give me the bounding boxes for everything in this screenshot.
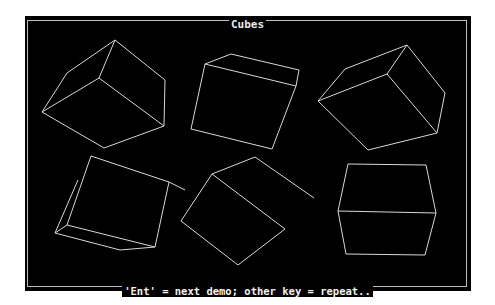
cube-edge	[437, 93, 445, 133]
cube-edge	[238, 229, 285, 265]
cube-4	[55, 156, 185, 250]
cube-edge	[272, 86, 296, 149]
cube-edge	[42, 78, 99, 112]
cube-edge	[115, 40, 165, 80]
cube-edge	[67, 156, 91, 225]
cube-edge	[338, 211, 436, 213]
cube-edge	[346, 254, 425, 255]
cube-5	[181, 157, 314, 265]
cube-edge	[387, 74, 437, 133]
cube-edge	[42, 73, 67, 112]
cube-edge	[348, 164, 426, 165]
cube-edge	[99, 78, 164, 126]
cube-1	[42, 40, 165, 148]
cube-edge	[407, 45, 445, 93]
cube-edge	[296, 70, 299, 86]
cube-edge	[231, 54, 299, 70]
cube-6	[338, 164, 436, 255]
cube-edge	[212, 174, 285, 229]
cube-edge	[120, 247, 155, 250]
cube-edge	[338, 164, 348, 211]
cube-edge	[318, 74, 387, 101]
cube-edge	[255, 157, 314, 198]
cube-edge	[426, 165, 436, 213]
cube-edge	[155, 182, 169, 247]
cube-edge	[212, 157, 255, 174]
cube-edge	[67, 225, 155, 247]
cube-edge	[91, 156, 169, 182]
cube-edge	[345, 45, 407, 69]
cubes-canvas	[0, 0, 495, 305]
footer-prompt: 'Ent' = next demo; other key = repeat..	[0, 280, 495, 299]
cube-edge	[205, 64, 296, 86]
window-title-bar: Cubes	[0, 13, 495, 32]
cube-edge	[164, 80, 165, 126]
cube-edge	[318, 101, 368, 150]
cube-edge	[181, 174, 212, 221]
cube-edge	[42, 112, 104, 148]
cube-edge	[181, 221, 238, 265]
cube-edge	[191, 129, 272, 149]
cube-edge	[191, 64, 205, 129]
window-title: Cubes	[229, 18, 266, 31]
cube-3	[318, 45, 445, 150]
cube-edge	[338, 211, 346, 254]
cube-2	[191, 54, 299, 149]
cube-edge	[104, 126, 164, 148]
cube-edge	[205, 54, 231, 64]
footer-instruction: 'Ent' = next demo; other key = repeat..	[122, 285, 373, 297]
cube-edge	[169, 182, 185, 190]
cube-edge	[368, 133, 437, 150]
cube-edge	[425, 213, 436, 255]
